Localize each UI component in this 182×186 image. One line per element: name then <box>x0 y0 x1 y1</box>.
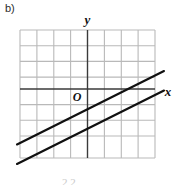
plotted-lines <box>17 71 164 164</box>
x-axis-label: x <box>164 84 172 99</box>
y-axis-label: y <box>83 12 91 27</box>
figure-container: b) <box>0 0 182 186</box>
axes <box>20 30 155 158</box>
plot-line-lower <box>17 91 164 165</box>
cut-off-caption: 2 2 <box>62 176 172 185</box>
origin-label: O <box>73 90 82 104</box>
coordinate-plane-plot: y x O <box>0 0 182 186</box>
plot-line-upper <box>17 71 164 145</box>
